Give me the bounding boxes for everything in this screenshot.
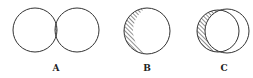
circle-right bbox=[55, 8, 99, 52]
venn-figure: A B C bbox=[0, 0, 253, 78]
venn-diagram-c: C bbox=[195, 5, 249, 73]
venn-diagram-b: B bbox=[120, 4, 187, 73]
circle-left bbox=[13, 8, 57, 52]
label-c: C bbox=[220, 63, 227, 73]
venn-diagram-a: A bbox=[13, 8, 99, 73]
label-a: A bbox=[52, 63, 61, 73]
label-b: B bbox=[143, 63, 151, 73]
